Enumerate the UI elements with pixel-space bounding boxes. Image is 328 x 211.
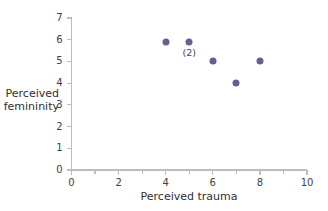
data-point — [233, 80, 240, 87]
data-point — [256, 58, 263, 65]
y-tick-label: 2 — [56, 122, 62, 132]
x-tick-label: 10 — [301, 178, 314, 188]
x-tick-label: 8 — [257, 178, 263, 188]
x-axis-ticks — [72, 170, 308, 175]
data-point — [186, 38, 193, 45]
y-tick-label: 7 — [56, 13, 62, 23]
x-axis-title: Perceived trauma — [141, 190, 238, 203]
data-point — [162, 38, 169, 45]
data-point — [209, 58, 216, 65]
y-tick-label: 5 — [56, 56, 62, 66]
y-axis-ticks — [67, 18, 72, 170]
y-axis-title: Perceived femininity — [4, 87, 59, 113]
x-tick-label: 6 — [210, 178, 216, 188]
y-axis-title-line-2: femininity — [4, 100, 59, 113]
x-tick-label: 4 — [163, 178, 169, 188]
y-axis-title-line-1: Perceived — [4, 87, 59, 100]
y-tick-label: 6 — [56, 35, 62, 45]
x-tick-label: 2 — [115, 178, 121, 188]
scatter-plot-figure: 01234567 0246810 (2) Perceived femininit… — [0, 0, 328, 211]
point-count-annotation: (2) — [183, 47, 196, 58]
y-tick-label: 1 — [56, 143, 62, 153]
x-tick-label: 0 — [68, 178, 74, 188]
y-tick-label: 0 — [56, 165, 62, 175]
